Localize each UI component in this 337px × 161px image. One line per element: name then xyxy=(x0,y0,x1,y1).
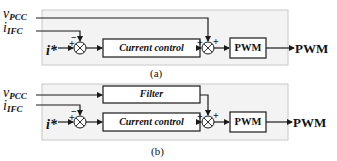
panel-b-sum2-left-sign: + xyxy=(197,112,203,122)
control-diagram: vPCC iIFC i* − + Current control + + PWM… xyxy=(0,0,337,161)
panel-b-output-label: PWM xyxy=(293,116,326,129)
panel-b-sum-junction-1 xyxy=(74,116,86,128)
panel-a-iifc-label: iIFC xyxy=(3,21,22,35)
panel-a-iref-label: i* xyxy=(46,44,57,58)
panel-a-output-label: PWM xyxy=(295,42,328,55)
panel-a-vpcc-label: vPCC xyxy=(3,7,27,21)
panel-a-current-control-label: Current control xyxy=(103,43,200,53)
panel-b-pwm-label: PWM xyxy=(230,117,266,128)
panel-a-sum2-right-sign: + xyxy=(213,37,219,47)
panel-b-iref-label: i* xyxy=(46,118,57,132)
panel-a-caption: (a) xyxy=(150,68,162,79)
panel-b-filter-label: Filter xyxy=(103,89,200,99)
panel-b-sum1-left-sign: + xyxy=(69,113,75,123)
panel-a-sum-junction-1 xyxy=(74,42,86,54)
panel-a-sum1-left-sign: + xyxy=(69,39,75,49)
panel-a-pwm-label: PWM xyxy=(230,43,266,54)
panel-b-sum2-right-sign: + xyxy=(213,111,219,121)
diagram-graphics xyxy=(0,0,337,161)
panel-a-sum2-left-sign: + xyxy=(197,38,203,48)
panel-b-current-control-label: Current control xyxy=(103,117,200,127)
panel-b-iifc-label: iIFC xyxy=(3,99,22,113)
panel-b-caption: (b) xyxy=(151,146,164,157)
